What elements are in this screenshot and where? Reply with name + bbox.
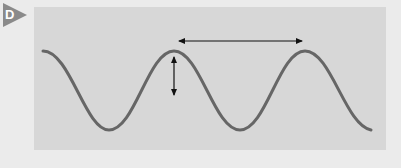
- wave-diagram: [0, 0, 401, 168]
- sine-wave-curve: [43, 51, 371, 130]
